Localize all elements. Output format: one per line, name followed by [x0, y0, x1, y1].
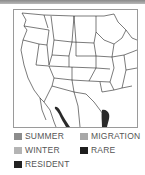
- legend-item-migration: MIGRATION: [80, 131, 140, 141]
- swatch-icon: [80, 147, 88, 154]
- swatch-icon: [80, 133, 88, 140]
- swatch-icon: [14, 133, 22, 140]
- legend-label: WINTER: [25, 145, 60, 155]
- legend-item-winter: WINTER: [14, 145, 60, 155]
- legend-label: RARE: [91, 145, 115, 155]
- swatch-icon: [14, 161, 22, 168]
- range-map: [13, 9, 138, 128]
- legend-item-summer: SUMMER: [14, 131, 64, 141]
- legend-label: SUMMER: [25, 131, 64, 141]
- range-area-resident: [55, 107, 109, 127]
- us-map-outline: [14, 10, 137, 127]
- top-bar: [0, 0, 145, 4]
- legend-item-rare: RARE: [80, 145, 115, 155]
- legend-label: RESIDENT: [25, 159, 70, 169]
- legend-item-resident: RESIDENT: [14, 159, 70, 169]
- swatch-icon: [14, 147, 22, 154]
- legend-label: MIGRATION: [91, 131, 140, 141]
